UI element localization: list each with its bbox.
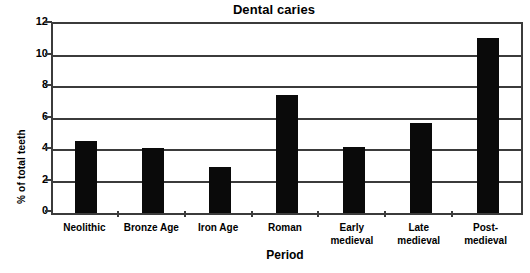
x-axis-tick-mark — [317, 211, 319, 217]
y-axis-tick-label: 10 — [12, 48, 48, 59]
x-axis-tick-mark — [117, 211, 119, 217]
x-axis-tick-label: Early medieval — [318, 221, 385, 247]
bar — [209, 167, 231, 213]
x-axis-tick-label: Neolithic — [51, 221, 118, 234]
bar — [343, 147, 365, 213]
y-axis-tick-label: 6 — [12, 111, 48, 122]
gridline — [53, 55, 521, 57]
y-axis-tick-label: 12 — [12, 16, 48, 27]
x-axis-tick-label: Roman — [252, 221, 319, 234]
x-axis-tick-mark — [384, 211, 386, 217]
bar — [142, 148, 164, 213]
x-axis-tick-label: Post- medieval — [452, 221, 519, 247]
bar — [276, 95, 298, 213]
bar — [477, 38, 499, 213]
plot-area — [51, 22, 523, 215]
x-axis-tick-mark — [451, 211, 453, 217]
dental-caries-bar-chart: Dental caries % of total teeth 024681012… — [0, 0, 530, 273]
x-axis-tick-label: Late medieval — [385, 221, 452, 247]
y-axis-tick-label: 0 — [12, 205, 48, 216]
x-axis-tick-mark — [184, 211, 186, 217]
x-axis-tick-label: Iron Age — [185, 221, 252, 234]
gridline — [53, 86, 521, 88]
x-axis-tick-label: Bronze Age — [118, 221, 185, 234]
chart-title: Dental caries — [0, 2, 530, 17]
y-axis-tick-label: 8 — [12, 79, 48, 90]
y-axis-tick-label: 4 — [12, 142, 48, 153]
x-axis-label: Period — [51, 248, 519, 262]
y-axis-tick-labels: 024681012 — [8, 0, 48, 273]
x-axis-tick-mark — [251, 211, 253, 217]
y-axis-tick-label: 2 — [12, 174, 48, 185]
bar — [410, 123, 432, 213]
bar — [75, 141, 97, 213]
